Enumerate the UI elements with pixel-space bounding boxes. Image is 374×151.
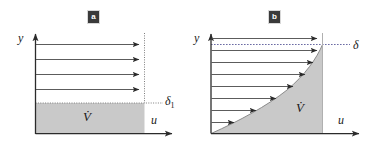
panel-b-region-label: V̇ [296, 100, 304, 116]
panel-b-thickness-label: δ [353, 38, 359, 54]
panel-a-velocity-vectors [36, 45, 139, 90]
figure-root: a [0, 0, 374, 151]
panel-a: a [0, 0, 187, 151]
panel-a-y-axis-label: y [18, 31, 23, 46]
panel-a-x-axis-label: u [151, 113, 157, 128]
panel-a-plot [0, 0, 187, 151]
panel-b-delta-glyph: δ [353, 38, 359, 52]
panel-b-y-axis-label: y [194, 31, 199, 46]
panel-a-thickness-label: δ1 [165, 94, 175, 110]
panel-a-delta-subscript: 1 [171, 101, 175, 110]
panel-b-shaded-region [211, 45, 323, 134]
panel-a-region-label: V̇ [83, 109, 91, 125]
panel-b-x-axis-label: u [338, 113, 344, 128]
panel-b: b [187, 0, 374, 151]
panel-b-plot [187, 0, 374, 151]
